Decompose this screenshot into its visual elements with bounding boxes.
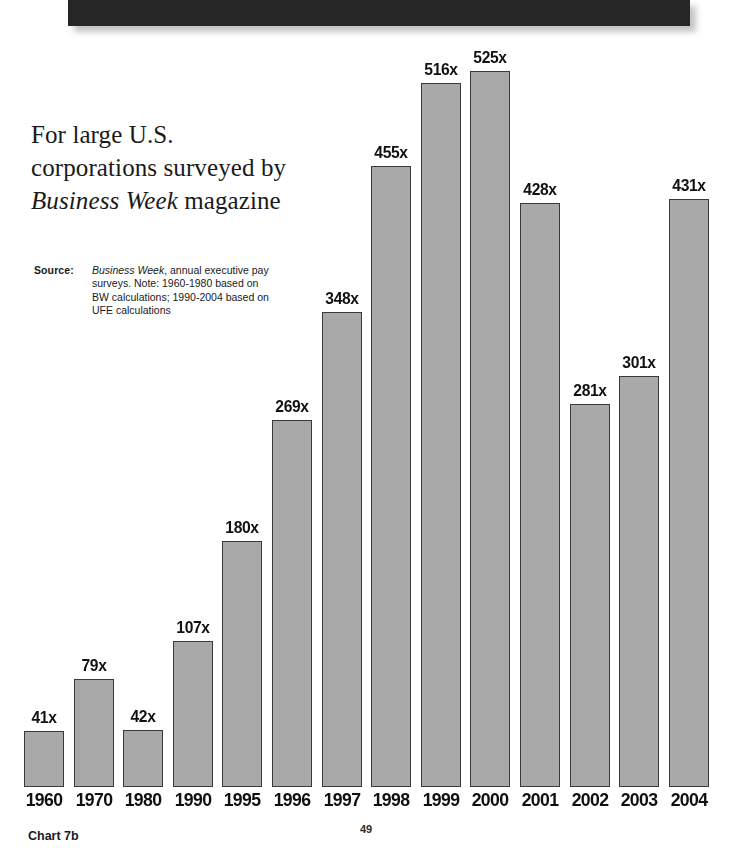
- chart-id-label: Chart 7b: [28, 829, 79, 843]
- x-tick-2001: 2001: [517, 789, 564, 811]
- x-tick-1997: 1997: [318, 789, 365, 811]
- bar-group-1990: 107x: [173, 0, 213, 787]
- x-tick-1970: 1970: [70, 789, 117, 811]
- x-tick-1999: 1999: [418, 789, 465, 811]
- bar-value-label-1970: 79x: [69, 656, 119, 676]
- bar-group-1995: 180x: [222, 0, 262, 787]
- x-tick-1960: 1960: [21, 789, 68, 811]
- bar-group-2004: 431x: [669, 0, 709, 787]
- bar-group-1996: 269x: [272, 0, 312, 787]
- bar-group-1999: 516x: [421, 0, 461, 787]
- bar-1990[interactable]: [173, 641, 213, 787]
- x-tick-2000: 2000: [467, 789, 514, 811]
- bar-1995[interactable]: [222, 541, 262, 787]
- bar-value-label-2000: 525x: [466, 48, 516, 68]
- bar-value-label-1980: 42x: [118, 707, 168, 727]
- bar-1970[interactable]: [74, 679, 114, 787]
- bar-1980[interactable]: [123, 730, 163, 787]
- bar-group-1998: 455x: [371, 0, 411, 787]
- bar-value-label-1990: 107x: [168, 618, 218, 638]
- bar-value-label-1998: 455x: [366, 143, 416, 163]
- x-tick-2003: 2003: [616, 789, 663, 811]
- bar-2002[interactable]: [570, 404, 610, 787]
- bar-value-label-1996: 269x: [267, 397, 317, 417]
- bar-2000[interactable]: [470, 71, 510, 787]
- bar-1999[interactable]: [421, 83, 461, 787]
- bar-1996[interactable]: [272, 420, 312, 787]
- x-tick-1980: 1980: [120, 789, 167, 811]
- x-tick-1990: 1990: [170, 789, 217, 811]
- x-tick-1995: 1995: [219, 789, 266, 811]
- bar-group-1980: 42x: [123, 0, 163, 787]
- bar-1997[interactable]: [322, 312, 362, 787]
- bar-value-label-2003: 301x: [614, 353, 664, 373]
- bar-2001[interactable]: [520, 203, 560, 787]
- bar-value-label-1960: 41x: [19, 708, 69, 728]
- x-axis-labels: 1960197019801990199519961997199819992000…: [24, 789, 720, 815]
- page-number: 49: [360, 823, 372, 835]
- bar-group-1970: 79x: [74, 0, 114, 787]
- bar-group-2001: 428x: [520, 0, 560, 787]
- bar-value-label-2002: 281x: [565, 381, 615, 401]
- x-tick-2004: 2004: [666, 789, 713, 811]
- x-tick-2002: 2002: [566, 789, 613, 811]
- x-tick-1998: 1998: [368, 789, 415, 811]
- bar-value-label-1995: 180x: [218, 518, 268, 538]
- bar-2003[interactable]: [619, 376, 659, 787]
- bar-group-2002: 281x: [570, 0, 610, 787]
- bar-value-label-1999: 516x: [416, 60, 466, 80]
- bar-group-2003: 301x: [619, 0, 659, 787]
- bar-group-2000: 525x: [470, 0, 510, 787]
- bar-value-label-1997: 348x: [317, 289, 367, 309]
- bar-group-1997: 348x: [322, 0, 362, 787]
- bar-1960[interactable]: [24, 731, 64, 787]
- bar-1998[interactable]: [371, 166, 411, 787]
- x-tick-1996: 1996: [269, 789, 316, 811]
- bar-group-1960: 41x: [24, 0, 64, 787]
- bar-chart-plot-area: 41x79x42x107x180x269x348x455x516x525x428…: [24, 0, 720, 787]
- bar-2004[interactable]: [669, 199, 709, 787]
- bar-value-label-2004: 431x: [664, 176, 714, 196]
- bar-value-label-2001: 428x: [515, 180, 565, 200]
